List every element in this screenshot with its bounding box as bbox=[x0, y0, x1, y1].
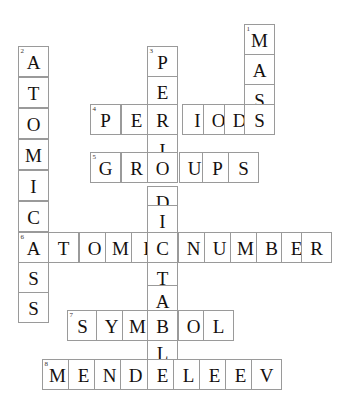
cell-letter: S bbox=[68, 311, 97, 340]
crossword-cell[interactable]: 5G bbox=[90, 152, 121, 183]
cell-letter: E bbox=[148, 77, 177, 106]
cell-letter: G bbox=[91, 153, 120, 182]
crossword-cell[interactable]: S bbox=[244, 104, 275, 135]
cell-letter: A bbox=[19, 233, 48, 262]
crossword-cell[interactable]: V bbox=[251, 359, 282, 390]
cell-letter: T bbox=[49, 233, 78, 262]
crossword-cell[interactable]: S bbox=[18, 292, 49, 323]
cell-letter: O bbox=[19, 109, 48, 138]
cell-letter: O bbox=[148, 153, 177, 182]
crossword-cell[interactable]: 6A bbox=[18, 232, 49, 263]
crossword-cell[interactable]: 1M bbox=[244, 24, 275, 55]
crossword-cell[interactable]: 7S bbox=[67, 310, 98, 341]
crossword-cell[interactable]: T bbox=[48, 232, 79, 263]
crossword-grid: 1MAS2ATOMICMSS3PEIDITAL4PERIODS5GROUPS6A… bbox=[0, 0, 341, 398]
crossword-cell[interactable]: R bbox=[301, 232, 332, 263]
cell-letter: C bbox=[148, 233, 177, 262]
cell-letter: A bbox=[245, 55, 274, 84]
cell-letter: P bbox=[91, 105, 120, 134]
crossword-cell[interactable]: A bbox=[244, 54, 275, 85]
crossword-cell[interactable]: S bbox=[228, 152, 259, 183]
cell-letter: I bbox=[19, 171, 48, 200]
crossword-cell[interactable]: 4P bbox=[90, 104, 121, 135]
crossword-cell[interactable]: C bbox=[147, 232, 178, 263]
cell-letter: S bbox=[19, 293, 48, 322]
crossword-cell[interactable]: L bbox=[203, 310, 234, 341]
cell-letter: R bbox=[148, 105, 177, 134]
cell-letter: D bbox=[121, 360, 150, 389]
crossword-cell[interactable]: M bbox=[18, 139, 49, 170]
crossword-cell[interactable]: S bbox=[18, 262, 49, 293]
cell-letter: M bbox=[245, 25, 274, 54]
cell-letter: S bbox=[229, 153, 258, 182]
cell-letter: B bbox=[148, 311, 177, 340]
cell-letter: P bbox=[148, 47, 177, 76]
cell-letter: C bbox=[19, 202, 48, 231]
cell-letter: A bbox=[19, 47, 48, 76]
crossword-cell[interactable]: R bbox=[147, 104, 178, 135]
cell-letter: I bbox=[148, 206, 177, 235]
crossword-cell[interactable]: O bbox=[18, 108, 49, 139]
cell-letter: R bbox=[302, 233, 331, 262]
cell-letter: T bbox=[19, 78, 48, 107]
cell-letter: L bbox=[204, 311, 233, 340]
crossword-cell[interactable]: I bbox=[18, 170, 49, 201]
crossword-cell[interactable]: 2A bbox=[18, 46, 49, 77]
cell-letter: S bbox=[19, 263, 48, 292]
crossword-cell[interactable]: T bbox=[18, 77, 49, 108]
crossword-cell[interactable]: C bbox=[18, 201, 49, 232]
crossword-cell[interactable]: B bbox=[147, 310, 178, 341]
cell-letter: M bbox=[19, 140, 48, 169]
cell-letter: V bbox=[252, 360, 281, 389]
cell-letter: S bbox=[245, 105, 274, 134]
crossword-cell[interactable]: 3P bbox=[147, 46, 178, 77]
crossword-cell[interactable]: O bbox=[147, 152, 178, 183]
crossword-cell[interactable]: E bbox=[147, 76, 178, 107]
